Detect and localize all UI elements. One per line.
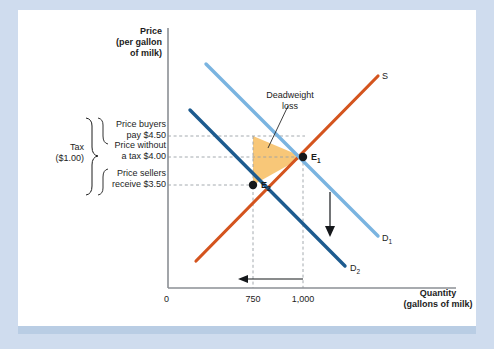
tax-bracket-label-line1: Tax — [70, 142, 84, 152]
equilibrium-point-e1 — [299, 153, 307, 161]
price-label-buyers: Price buyers pay $4.50 — [106, 119, 166, 141]
deadweight-loss-label-line2: loss — [282, 101, 298, 111]
x-axis-title-line1: Quantity — [420, 288, 457, 298]
demand-curve-2-label-sub: 2 — [357, 268, 361, 275]
equilibrium-label-e2: E2 — [261, 180, 271, 194]
origin-label: 0 — [164, 294, 169, 305]
x-axis-title: Quantity (gallons of milk) — [388, 288, 488, 310]
supply-curve-label: S — [382, 71, 388, 82]
figure-container: Price (per gallon of milk) Quantity (gal… — [0, 0, 494, 349]
deadweight-loss-label-line1: Deadweight — [266, 90, 314, 100]
demand-curve-1-label: D1 — [382, 233, 392, 247]
tax-bracket-label: Tax ($1.00) — [26, 142, 84, 164]
price-label-buyers-line2: pay $4.50 — [126, 130, 166, 140]
y-axis-title-line1: Price — [140, 26, 162, 36]
supply-curve-label-text: S — [382, 71, 388, 81]
price-label-buyers-line1: Price buyers — [116, 119, 166, 129]
price-label-no-tax-line2: a tax $4.00 — [121, 151, 166, 161]
y-axis-title: Price (per gallon of milk) — [96, 26, 162, 59]
y-axis-title-line2: (per gallon — [116, 37, 162, 47]
quantity-decrease-arrow — [238, 275, 303, 283]
equilibrium-label-e2-sub: 2 — [267, 185, 271, 192]
equilibrium-label-e1-sub: 1 — [317, 157, 321, 164]
demand-curve-2-label: D2 — [350, 263, 360, 277]
deadweight-loss-label: Deadweight loss — [248, 90, 332, 112]
price-label-sellers-line2: receive $3.50 — [112, 179, 166, 189]
price-label-no-tax-line1: Price without — [114, 140, 166, 150]
demand-curve-1-label-sub: 1 — [389, 238, 393, 245]
y-axis-title-line3: of milk) — [130, 48, 162, 58]
tax-bracket — [86, 118, 98, 195]
equilibrium-point-e2 — [249, 181, 257, 189]
price-label-no-tax: Price without a tax $4.00 — [106, 140, 166, 162]
tax-bracket-label-line2: ($1.00) — [55, 153, 84, 163]
demand-shift-arrow — [325, 192, 335, 237]
price-label-sellers-line1: Price sellers — [117, 168, 166, 178]
equilibrium-label-e1: E1 — [311, 152, 321, 166]
x-tick-label-1000: 1,000 — [283, 294, 323, 305]
x-axis-title-line2: (gallons of milk) — [403, 299, 472, 309]
price-label-sellers: Price sellers receive $3.50 — [100, 168, 166, 190]
x-tick-label-750: 750 — [233, 294, 273, 305]
